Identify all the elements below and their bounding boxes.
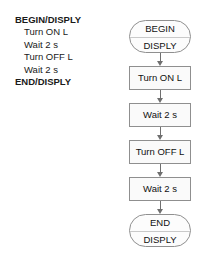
flowchart-node-turn-on: Turn ON L [129,66,191,90]
arrow-down-icon [156,127,165,140]
pseudocode-line: Wait 2 s [15,64,110,76]
flowchart-node-end-line1: END [130,215,190,232]
pseudocode-line: Turn OFF L [15,51,110,63]
arrow-down-icon [156,201,165,214]
pseudocode-line: Turn ON L [15,26,110,38]
arrow-down-icon [156,164,165,177]
flowchart-node-end-line2: DISPLY [130,232,190,247]
pseudocode-line: BEGIN/DISPLY [15,14,110,26]
flowchart-node-begin-line1: BEGIN [130,21,190,38]
flowchart-node-turn-off: Turn OFF L [129,140,191,164]
flowchart-node-begin-line2: DISPLY [130,38,190,53]
pseudocode-line: END/DISPLY [15,76,110,88]
arrow-down-icon [156,53,165,66]
flowchart-node-wait-2: Wait 2 s [129,177,191,201]
pseudocode-block: BEGIN/DISPLY Turn ON L Wait 2 s Turn OFF… [15,14,110,88]
flowchart-node-end: END DISPLY [129,214,191,247]
flowchart-diagram: BEGIN/DISPLY Turn ON L Wait 2 s Turn OFF… [0,0,205,253]
pseudocode-line: Wait 2 s [15,39,110,51]
flowchart-node-begin: BEGIN DISPLY [129,20,191,53]
flowchart-node-wait-1: Wait 2 s [129,103,191,127]
arrow-down-icon [156,90,165,103]
flowchart-column: BEGIN DISPLY Turn ON L Wait 2 s Turn OFF… [128,20,192,247]
